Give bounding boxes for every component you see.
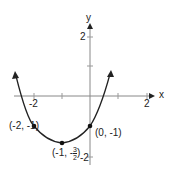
y-axis-label: y [86,13,91,23]
point-label-c: (0, -1) [95,128,122,138]
point-vertex [60,141,65,146]
x-axis-label: x [159,90,164,100]
x-tick-label-2: 2 [144,99,150,109]
point-label-a: (-2, -1) [9,121,39,131]
y-tick-label-2: 2 [80,32,86,42]
point-label-b-prefix: (-1, - [52,147,73,158]
y-tick-label-neg2: -2 [80,153,89,163]
point-label-b-suffix: ) [77,147,80,158]
x-tick-label-neg2: -2 [29,99,38,109]
graph-canvas [0,0,175,174]
curve-arrow-left-icon [12,71,19,79]
point-0-neg1 [88,124,93,129]
point-label-b: (-1, -32) [52,146,80,161]
curve-arrow-right-icon [107,70,114,77]
